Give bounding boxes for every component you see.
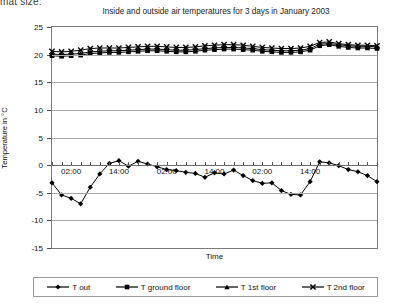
- legend-item[interactable]: T 1st floor: [215, 282, 276, 292]
- data-point-diamond: [250, 178, 255, 183]
- x-tick-mark: [377, 162, 378, 165]
- gridline: [52, 220, 377, 221]
- x-tick-mark: [167, 162, 168, 165]
- y-tick-label: 5: [39, 133, 43, 142]
- x-tick-mark: [71, 162, 72, 165]
- x-tick-mark: [109, 162, 110, 165]
- legend-label: T 2nd floor: [327, 283, 365, 292]
- x-tick-mark: [281, 162, 282, 165]
- y-axis-title-wrap: Temperature in °C: [18, 26, 30, 249]
- x-tick-mark: [348, 162, 349, 165]
- legend-label: T out: [72, 283, 90, 292]
- x-tick-label: 14:00: [204, 167, 224, 176]
- gridline: [52, 138, 377, 139]
- legend-item[interactable]: T 2nd floor: [301, 282, 365, 292]
- data-point-diamond: [346, 167, 351, 172]
- y-tick-label: 15: [34, 78, 43, 87]
- x-tick-mark: [320, 162, 321, 165]
- x-tick-mark: [119, 162, 120, 165]
- x-tick-label: 02:00: [252, 167, 272, 176]
- x-tick-mark: [358, 162, 359, 165]
- x-tick-mark: [205, 162, 206, 165]
- x-tick-mark: [176, 162, 177, 165]
- x-tick-mark: [367, 162, 368, 165]
- data-point-diamond: [231, 167, 236, 172]
- legend-label: T ground floor: [141, 283, 191, 292]
- data-point-diamond: [260, 181, 265, 186]
- x-tick-mark: [291, 162, 292, 165]
- chart-title: Inside and outside air temperatures for …: [51, 7, 381, 16]
- y-tick-label: 0: [39, 161, 43, 170]
- data-point-diamond: [183, 170, 188, 175]
- x-tick-label: 02:00: [61, 167, 81, 176]
- x-tick-label: 14:00: [300, 167, 320, 176]
- x-tick-mark: [215, 162, 216, 165]
- x-tick-mark: [81, 162, 82, 165]
- x-tick-mark: [339, 162, 340, 165]
- x-axis-title: Time: [51, 252, 378, 261]
- chart-legend: T outT ground floorT 1st floorT 2nd floo…: [33, 277, 378, 297]
- y-tick-label: -5: [36, 188, 43, 197]
- x-tick-mark: [262, 162, 263, 165]
- x-tick-mark: [100, 162, 101, 165]
- data-point-diamond: [365, 173, 370, 178]
- gridline: [52, 193, 377, 194]
- gridline: [52, 55, 377, 56]
- y-tick-label: 10: [34, 105, 43, 114]
- legend-label: T 1st floor: [241, 283, 276, 292]
- y-tick-label: 20: [34, 50, 43, 59]
- legend-marker-triangle: [215, 282, 239, 292]
- data-point-diamond: [69, 196, 74, 201]
- legend-marker-square: [115, 282, 139, 292]
- chart-screenshot: mat size: Inside and outside air tempera…: [0, 0, 399, 306]
- data-point-diamond: [78, 201, 83, 206]
- x-tick-mark: [310, 162, 311, 165]
- x-tick-mark: [243, 162, 244, 165]
- legend-item[interactable]: T ground floor: [115, 282, 191, 292]
- x-tick-mark: [329, 162, 330, 165]
- x-tick-mark: [301, 162, 302, 165]
- x-tick-label: 14:00: [109, 167, 129, 176]
- x-tick-mark: [234, 162, 235, 165]
- y-tick-label: 25: [34, 23, 43, 32]
- x-tick-mark: [52, 162, 53, 165]
- data-point-diamond: [193, 171, 198, 176]
- x-tick-mark: [224, 162, 225, 165]
- x-tick-mark: [62, 162, 63, 165]
- y-tick-label: -10: [31, 216, 43, 225]
- x-tick-mark: [148, 162, 149, 165]
- gridline: [52, 110, 377, 111]
- data-point-square: [124, 285, 129, 290]
- gridline: [52, 82, 377, 83]
- x-tick-mark: [157, 162, 158, 165]
- y-tick-label: -15: [31, 244, 43, 253]
- data-point-diamond: [56, 284, 61, 289]
- x-tick-mark: [195, 162, 196, 165]
- x-tick-label: 02:00: [157, 167, 177, 176]
- legend-marker-cross: [301, 282, 325, 292]
- x-tick-mark: [272, 162, 273, 165]
- x-tick-mark: [138, 162, 139, 165]
- data-point-diamond: [241, 173, 246, 178]
- legend-marker-diamond: [46, 282, 70, 292]
- x-tick-mark: [253, 162, 254, 165]
- x-tick-mark: [128, 162, 129, 165]
- zero-line: [52, 165, 377, 166]
- data-point-diamond: [374, 179, 379, 184]
- data-point-diamond: [355, 169, 360, 174]
- plot-area: 02:0014:0002:0014:0002:0014:00: [51, 26, 378, 249]
- y-axis-title: Temperature in °C: [0, 107, 9, 168]
- x-tick-mark: [186, 162, 187, 165]
- legend-item[interactable]: T out: [46, 282, 90, 292]
- x-tick-mark: [90, 162, 91, 165]
